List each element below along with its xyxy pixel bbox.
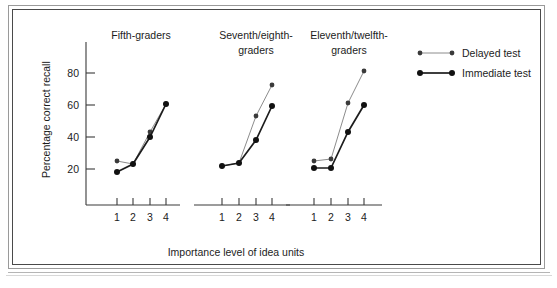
data-point-immediate-p3-x1: [311, 165, 317, 171]
x-tick-label-p1-1: 1: [114, 211, 120, 223]
data-point-immediate-p2-x3: [253, 137, 259, 143]
legend-immediate-marker-right: [449, 70, 455, 76]
x-tick-label-p3-3: 3: [345, 211, 351, 223]
data-point-delayed-p2-x4: [270, 83, 275, 88]
x-tick-label-p2-1: 1: [219, 211, 225, 223]
series-delayed-line-panel2: [222, 85, 272, 166]
panel-title-fifth-graders: Fifth-graders: [111, 29, 171, 41]
y-axis-title: Percentage correct recall: [40, 61, 52, 178]
x-tick-label-p1-3: 3: [147, 211, 153, 223]
chart-svg: 80 60 40 20 Percentage correct recall Fi…: [0, 0, 557, 288]
data-point-immediate-p2-x1: [219, 163, 225, 169]
series-immediate-line-panel1: [117, 104, 166, 172]
x-tick-label-p2-4: 4: [269, 211, 275, 223]
x-tick-label-p1-4: 4: [163, 211, 169, 223]
series-delayed-line-panel1: [117, 104, 166, 164]
data-point-immediate-p1-x3: [147, 134, 153, 140]
data-point-delayed-p2-x3: [254, 114, 259, 119]
panel-title-seventh-eighth-graders-line2: graders: [238, 44, 274, 56]
legend-item-immediate-test[interactable]: Immediate test: [417, 67, 531, 79]
x-tick-label-p3-2: 2: [328, 211, 334, 223]
legend-delayed-marker-right: [450, 51, 455, 56]
data-point-immediate-p1-x4: [163, 101, 169, 107]
legend-label-immediate-test: Immediate test: [462, 67, 531, 79]
x-tick-label-p3-1: 1: [311, 211, 317, 223]
data-point-immediate-p1-x1: [114, 169, 120, 175]
panel-title-eleventh-twelfth-graders-line2: graders: [331, 44, 367, 56]
data-point-immediate-p3-x4: [361, 102, 367, 108]
data-point-immediate-p3-x2: [328, 165, 334, 171]
plot-area: 80 60 40 20 Percentage correct recall Fi…: [0, 0, 557, 288]
x-tick-label-p3-4: 4: [361, 211, 367, 223]
panel-fifth-graders: 1 2 3 4: [86, 101, 180, 223]
legend-label-delayed-test: Delayed test: [462, 47, 520, 59]
data-point-immediate-p3-x3: [345, 129, 351, 135]
y-tick-label-20: 20: [67, 163, 79, 175]
series-immediate-line-panel3: [314, 105, 364, 168]
x-axis-title: Importance level of idea units: [168, 246, 305, 258]
legend-item-delayed-test[interactable]: Delayed test: [418, 47, 521, 59]
y-axis: 80 60 40 20: [67, 42, 95, 205]
data-point-immediate-p2-x4: [269, 103, 275, 109]
data-point-delayed-p3-x1: [312, 159, 317, 164]
legend-delayed-marker-left: [418, 51, 423, 56]
y-tick-label-80: 80: [67, 67, 79, 79]
legend-immediate-marker-left: [417, 70, 423, 76]
panel-title-seventh-eighth-graders-line1: Seventh/eighth-: [219, 29, 293, 41]
y-tick-label-60: 60: [67, 99, 79, 111]
panel-eleventh-twelfth-graders: 1 2 3 4: [286, 69, 382, 223]
data-point-immediate-p2-x2: [236, 160, 242, 166]
x-tick-label-p1-2: 2: [130, 211, 136, 223]
x-tick-label-p2-3: 3: [253, 211, 259, 223]
y-tick-label-40: 40: [67, 131, 79, 143]
data-point-immediate-p1-x2: [130, 161, 136, 167]
panel-seventh-eighth-graders: 1 2 3 4: [194, 83, 290, 223]
data-point-delayed-p3-x2: [329, 157, 334, 162]
data-point-delayed-p1-x1: [115, 159, 120, 164]
legend: Delayed test Immediate test: [417, 47, 531, 79]
series-immediate-line-panel2: [222, 106, 272, 166]
panel-title-eleventh-twelfth-graders-line1: Eleventh/twelfth-: [310, 29, 388, 41]
figure-root: 80 60 40 20 Percentage correct recall Fi…: [0, 0, 557, 288]
data-point-delayed-p3-x4: [362, 69, 367, 74]
data-point-delayed-p3-x3: [346, 101, 351, 106]
x-tick-label-p2-2: 2: [236, 211, 242, 223]
